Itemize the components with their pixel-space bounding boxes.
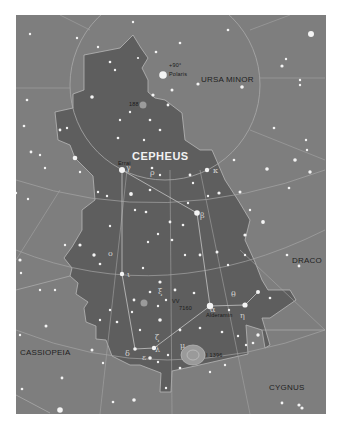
ngc188-label: 188 — [129, 101, 139, 107]
greek-rho: ρ — [150, 168, 155, 177]
greek-gamma: γ — [126, 163, 131, 172]
cygnus-label: CYGNUS — [269, 383, 304, 392]
greek-alpha: α — [210, 305, 215, 314]
greek-theta: θ — [231, 290, 236, 299]
greek-eta: η — [240, 311, 245, 320]
vv-nebula — [141, 300, 148, 307]
greek-delta: δ — [125, 349, 130, 358]
vv-label: VV — [172, 298, 180, 304]
draco-label: DRACO — [292, 256, 322, 265]
greek-zeta: ζ — [155, 333, 159, 342]
ursa-minor-label: URSA MINOR — [201, 75, 254, 84]
greek-lambda: λ — [155, 345, 160, 354]
polaris-label: Polaris — [169, 71, 187, 77]
greek-xi: ξ — [158, 287, 162, 296]
cepheus-label: CEPHEUS — [132, 150, 189, 162]
greek-epsilon: ε — [142, 353, 146, 362]
cassiopeia-label: CASSIOPEIA — [20, 348, 70, 357]
ic7160-label: 7160 — [179, 305, 192, 311]
ic1396-label: I 1396 — [206, 352, 223, 358]
greek-beta: β — [200, 211, 205, 220]
greek-mu: μ — [180, 341, 185, 350]
star-chart: CEPHEUS URSA MINOR DRACO CASSIOPEIA CYGN… — [16, 15, 326, 414]
ngc188-cluster — [140, 102, 147, 109]
greek-omicron: ο — [108, 249, 113, 258]
pole-label: +90° — [169, 62, 181, 68]
greek-iota: ι — [127, 270, 130, 279]
greek-kappa: κ — [213, 166, 218, 175]
